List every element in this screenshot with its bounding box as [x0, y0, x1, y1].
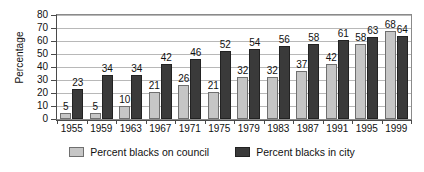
x-tick-label: 1955 [61, 124, 83, 134]
bar [208, 92, 219, 119]
y-tick-label: 60 [2, 36, 48, 46]
bar [355, 44, 366, 119]
bar [385, 31, 396, 119]
bar [102, 75, 113, 119]
x-tick-label: 1971 [179, 124, 201, 134]
bar [367, 37, 378, 119]
bar-value-label: 54 [246, 38, 263, 48]
bar [220, 51, 231, 119]
x-tick-label: 1983 [267, 124, 289, 134]
bar-value-label: 46 [187, 48, 204, 58]
y-tick-label: 40 [2, 62, 48, 72]
bar [338, 40, 349, 119]
x-tick-label: 1959 [90, 124, 112, 134]
bar [267, 77, 278, 119]
bar-value-label: 34 [128, 64, 145, 74]
bar-group: 6864 [382, 15, 412, 119]
bar [90, 113, 101, 120]
chart-legend: Percent blacks on councilPercent blacks … [0, 146, 424, 158]
bar-value-label: 56 [276, 35, 293, 45]
x-tick-label: 1987 [297, 124, 319, 134]
bar [178, 85, 189, 119]
bar [279, 46, 290, 119]
bar [397, 36, 408, 119]
bar [131, 75, 142, 119]
bar-group: 3758 [293, 15, 323, 119]
bar-group: 5863 [352, 15, 382, 119]
bar-group: 4261 [323, 15, 353, 119]
bar-group: 534 [87, 15, 117, 119]
bar [72, 89, 83, 119]
bar-value-label: 42 [158, 53, 175, 63]
y-tick-label: 30 [2, 75, 48, 85]
legend-label: Percent blacks on council [90, 146, 209, 158]
bar-value-label: 34 [99, 64, 116, 74]
legend-swatch-light [69, 147, 84, 157]
bar-group: 2646 [175, 15, 205, 119]
bar-value-label: 52 [217, 40, 234, 50]
bar [161, 64, 172, 119]
legend-label: Percent blacks in city [256, 146, 355, 158]
y-tick-label: 70 [2, 23, 48, 33]
bar [326, 64, 337, 119]
legend-item[interactable]: Percent blacks on council [69, 146, 209, 158]
bar [237, 77, 248, 119]
bar [296, 71, 307, 119]
bar-value-label: 63 [364, 26, 381, 36]
bar-group: 3256 [264, 15, 294, 119]
x-tick-label: 1995 [356, 124, 378, 134]
x-tick-label: 1975 [208, 124, 230, 134]
x-axis-labels: 1955195919631967197119751979198319871991… [57, 124, 411, 138]
bar [60, 113, 71, 120]
legend-swatch-dark [235, 147, 250, 157]
y-tick-label: 50 [2, 49, 48, 59]
x-tick-label: 1967 [149, 124, 171, 134]
y-axis-ticks: 01020304050607080 [0, 14, 56, 120]
x-tick-mark [411, 120, 412, 124]
bar [119, 106, 130, 119]
y-tick-label: 10 [2, 101, 48, 111]
bar [249, 49, 260, 119]
x-tick-label: 1979 [238, 124, 260, 134]
bars-layer: 5235341034214226462152325432563758426158… [57, 15, 411, 119]
bar-group: 3254 [234, 15, 264, 119]
bar [190, 59, 201, 119]
y-tick-label: 20 [2, 88, 48, 98]
bar-group: 2152 [205, 15, 235, 119]
bar-group: 1034 [116, 15, 146, 119]
bar-value-label: 61 [335, 29, 352, 39]
bar [308, 44, 319, 119]
bar [149, 92, 160, 119]
bar-value-label: 58 [305, 33, 322, 43]
bar-value-label: 64 [394, 25, 411, 35]
x-tick-label: 1963 [120, 124, 142, 134]
bar-value-label: 23 [69, 78, 86, 88]
x-tick-label: 1999 [385, 124, 407, 134]
bar-chart: Percentage 01020304050607080 52353410342… [0, 0, 424, 172]
x-tick-label: 1991 [326, 124, 348, 134]
bar-group: 2142 [146, 15, 176, 119]
y-tick-label: 80 [2, 10, 48, 20]
y-tick-label: 0 [2, 114, 48, 124]
bar-group: 523 [57, 15, 87, 119]
legend-item[interactable]: Percent blacks in city [235, 146, 355, 158]
